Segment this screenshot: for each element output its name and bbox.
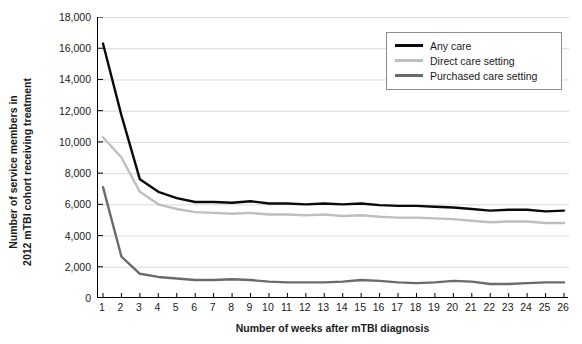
legend-item: Any care <box>395 38 555 53</box>
y-axis-title-line-2: 2012 mTBI cohort receiving treatment <box>20 78 34 266</box>
x-tick-label: 26 <box>550 301 576 313</box>
y-tick-label: 12,000 <box>33 106 91 116</box>
chart-legend: Any careDirect care settingPurchased car… <box>386 32 562 90</box>
series-line <box>103 187 564 284</box>
y-tick-label: 8,000 <box>33 168 91 178</box>
y-axis-tick-labels: 18,00016,00014,00012,00010,0008,0006,000… <box>33 0 91 344</box>
y-tick-label: 14,000 <box>33 74 91 84</box>
x-axis-tick-labels: 1234567891011121314151617181920212223242… <box>97 301 568 317</box>
legend-swatch-icon <box>395 74 423 77</box>
legend-label: Direct care setting <box>430 55 515 67</box>
y-tick-label: 0 <box>33 293 91 303</box>
x-axis-title: Number of weeks after mTBI diagnosis <box>97 322 568 334</box>
legend-label: Any care <box>430 40 471 52</box>
legend-swatch-icon <box>395 44 423 47</box>
chart-figure: Number of service members in 2012 mTBI c… <box>0 0 582 344</box>
y-tick-label: 18,000 <box>33 12 91 22</box>
y-tick-label: 2,000 <box>33 262 91 272</box>
y-tick-label: 16,000 <box>33 43 91 53</box>
y-tick-label: 6,000 <box>33 199 91 209</box>
legend-label: Purchased care setting <box>430 70 537 82</box>
legend-item: Direct care setting <box>395 53 555 68</box>
y-tick-label: 10,000 <box>33 137 91 147</box>
legend-item: Purchased care setting <box>395 68 555 83</box>
y-axis-title-line-1: Number of service members in <box>6 78 20 266</box>
y-tick-label: 4,000 <box>33 231 91 241</box>
legend-swatch-icon <box>395 59 423 62</box>
